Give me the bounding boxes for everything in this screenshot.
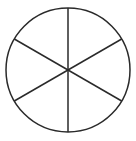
fraction-circle-figure xyxy=(0,0,136,141)
fraction-circle-svg xyxy=(0,0,136,141)
